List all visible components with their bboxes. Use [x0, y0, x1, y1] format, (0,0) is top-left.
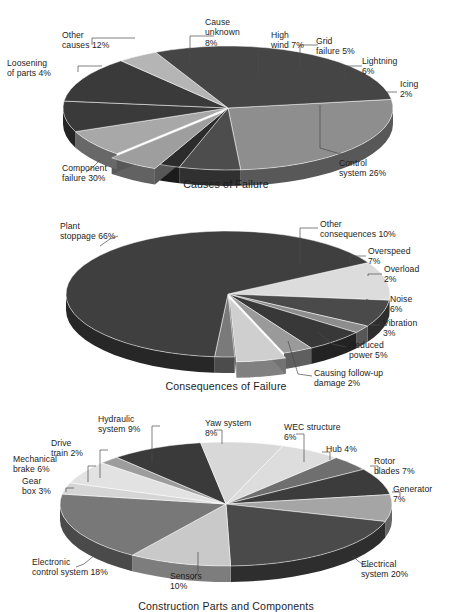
label-mechanical-brake: Mechanical brake 6%	[13, 454, 57, 475]
chart-consequences-of-failure: Plant stoppage 66% Other consequences 10…	[0, 196, 452, 401]
label-other-consequences: Other consequences 10%	[320, 219, 396, 240]
label-electronic-control-system: Electronic control system 18%	[32, 557, 108, 578]
label-vibration: Vibration 3%	[383, 318, 417, 339]
label-hydraulic-system: Hydraulic system 9%	[98, 414, 140, 435]
pie-slice-side	[215, 357, 235, 373]
label-lightning: Lightning 6%	[362, 56, 397, 77]
label-hub: Hub 4%	[326, 444, 357, 454]
label-plant-stoppage: Plant stoppage 66%	[60, 221, 116, 242]
label-reduced-power: Reduced power 5%	[349, 340, 388, 361]
label-cause-unknown: Cause unknown 8%	[205, 17, 240, 48]
label-icing: Icing 2%	[400, 79, 418, 100]
label-control-system: Control system 26%	[339, 158, 386, 179]
label-grid-failure: Grid failure 5%	[316, 36, 355, 57]
label-sensors: Sensors 10%	[170, 571, 202, 592]
label-wec-structure: WEC structure 6%	[284, 422, 341, 443]
label-rotor-blades: Rotor blades 7%	[374, 456, 415, 477]
chart-causes-of-failure: Other causes 12% Loosening of parts 4% C…	[0, 0, 452, 200]
label-loosening-of-parts: Loosening of parts 4%	[7, 58, 51, 79]
label-electrical-system: Electrical system 20%	[361, 559, 408, 580]
label-overload: Overload 2%	[384, 264, 419, 285]
label-gear-box: Gear box 3%	[22, 476, 51, 497]
chart-title-consequences-of-failure: Consequences of Failure	[0, 380, 452, 392]
label-high-wind: High wind 7%	[271, 30, 304, 51]
label-noise: Noise 6%	[390, 294, 412, 315]
label-yaw-system: Yaw system 8%	[205, 418, 251, 439]
label-generator: Generator 7%	[393, 484, 432, 505]
label-other-causes: Other causes 12%	[62, 30, 109, 51]
chart-title-construction-parts-and-components: Construction Parts and Components	[0, 600, 452, 612]
chart-construction-parts-and-components: Hydraulic system 9% Drive train 2% Mecha…	[0, 404, 452, 610]
chart-title-causes-of-failure: Causes of Failure	[0, 178, 452, 190]
